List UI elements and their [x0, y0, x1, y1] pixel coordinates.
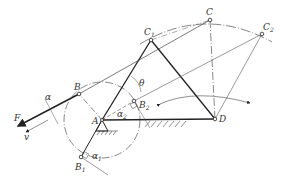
joints — [77, 18, 264, 159]
label-A: A — [91, 116, 99, 126]
label-C1: C1 — [144, 27, 155, 38]
label-B2: B2 — [138, 100, 150, 111]
label-theta: θ — [139, 78, 145, 88]
label-v: v — [24, 132, 29, 142]
rocker-C2D — [215, 34, 262, 119]
rocker-CD — [210, 20, 215, 119]
label-F: F — [13, 113, 21, 123]
label-alpha: α — [45, 92, 51, 102]
label-B: B — [73, 82, 81, 92]
label-alpha1: α1 — [92, 151, 102, 162]
link-C1D — [151, 40, 215, 119]
label-D: D — [218, 114, 226, 124]
rocker-arc — [140, 24, 272, 44]
label-C2: C2 — [263, 22, 274, 33]
coupler-B2C2 — [134, 34, 262, 101]
crank-AB — [79, 94, 102, 120]
ground-hatch — [97, 121, 186, 135]
linkage-diagram: A B B1 B2 C C1 C2 D F v α α1 α2 θ — [0, 0, 292, 188]
velocity-v-arrow — [26, 120, 48, 132]
frame-AD — [102, 119, 215, 120]
rocker-rotation-arrow — [160, 96, 250, 104]
label-alpha2: α2 — [117, 109, 127, 120]
label-B1: B1 — [74, 162, 85, 173]
label-C: C — [206, 7, 213, 17]
